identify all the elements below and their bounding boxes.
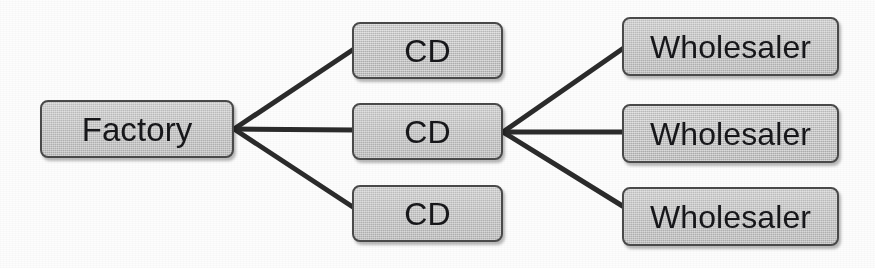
- node-cd-0-label: CD: [404, 35, 450, 67]
- edge-cd-wholesaler-0: [503, 45, 628, 132]
- node-cd-2-label: CD: [404, 198, 450, 230]
- edge-cd-wholesaler-2: [503, 132, 629, 210]
- edge-factory-cd-2: [234, 129, 362, 213]
- node-factory-label: Factory: [82, 113, 193, 146]
- node-wholesaler-2-label: Wholesaler: [650, 201, 811, 233]
- node-wholesaler-2[interactable]: Wholesaler: [622, 187, 839, 246]
- edge-factory-cd-1: [234, 129, 354, 130]
- node-factory[interactable]: Factory: [40, 100, 234, 158]
- node-wholesaler-0-label: Wholesaler: [650, 31, 811, 63]
- edge-factory-cd-0: [234, 47, 357, 129]
- node-wholesaler-1[interactable]: Wholesaler: [622, 104, 839, 163]
- node-cd-2[interactable]: CD: [352, 185, 503, 242]
- node-cd-1-label: CD: [404, 116, 450, 148]
- node-cd-1[interactable]: CD: [352, 103, 503, 160]
- supply-chain-diagram: Factory CD CD CD Wholesaler Wholesaler W…: [0, 0, 875, 268]
- node-cd-0[interactable]: CD: [352, 22, 503, 79]
- node-wholesaler-1-label: Wholesaler: [650, 118, 811, 150]
- node-wholesaler-0[interactable]: Wholesaler: [622, 17, 839, 76]
